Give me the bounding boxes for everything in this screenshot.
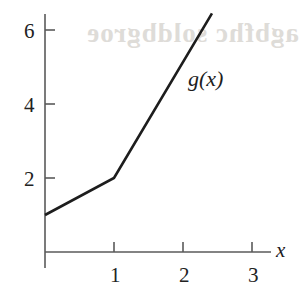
line-plot — [0, 0, 299, 294]
x-tick-label-3: 3 — [248, 265, 259, 286]
curve-annotation-label: g(x) — [188, 68, 223, 90]
curve-g-of-x — [45, 13, 212, 215]
figure-canvas: agbfhc soldbgroe 6 4 2 1 2 3 g(x) x — [0, 0, 299, 294]
y-tick-label-2: 2 — [24, 169, 35, 190]
y-tick-label-6: 6 — [24, 21, 35, 42]
x-tick-label-2: 2 — [179, 265, 190, 286]
x-axis-label: x — [276, 240, 285, 261]
y-tick-label-4: 4 — [24, 95, 35, 116]
x-tick-label-1: 1 — [110, 265, 121, 286]
